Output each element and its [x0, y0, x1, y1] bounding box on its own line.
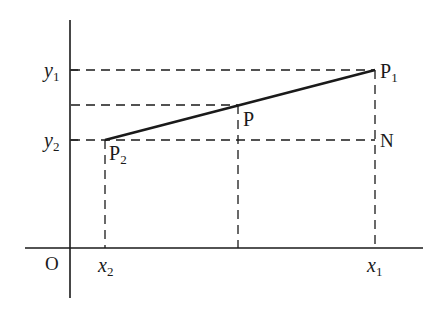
label-p: P — [243, 108, 254, 130]
label-n: N — [380, 130, 394, 151]
label-origin: O — [45, 253, 59, 274]
label-x2: x2 — [97, 254, 113, 279]
vertical-guides — [105, 70, 375, 248]
label-x1: x1 — [366, 254, 382, 279]
coordinate-diagram: y1 y2 O x2 x1 P1 P P2 N — [0, 0, 446, 316]
label-y2: y2 — [42, 129, 59, 154]
label-p2: P2 — [109, 142, 127, 167]
label-y1: y1 — [42, 59, 59, 84]
label-p1: P1 — [380, 60, 398, 85]
segment-p2-p1 — [105, 70, 375, 140]
